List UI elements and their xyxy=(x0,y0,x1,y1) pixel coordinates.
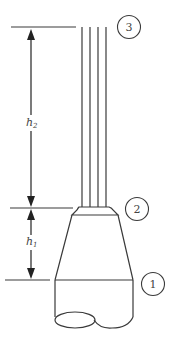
nozzle-body xyxy=(55,280,133,317)
arrowhead-up-icon xyxy=(27,29,35,40)
nozzle-diagram: h2 h1 3 2 1 xyxy=(0,0,176,345)
hose-end-ellipse xyxy=(55,312,95,328)
dimension-label-h1: h1 xyxy=(26,235,38,249)
arrowhead-down-icon xyxy=(27,268,35,279)
nozzle-collar xyxy=(72,207,118,215)
svg-text:2: 2 xyxy=(134,203,141,216)
svg-text:3: 3 xyxy=(126,21,133,34)
station-marker-2: 2 xyxy=(126,198,149,221)
station-marker-3: 3 xyxy=(118,16,141,39)
nozzle-frustum xyxy=(55,215,133,280)
hose-end-curve xyxy=(94,317,133,328)
station-marker-1: 1 xyxy=(142,273,165,296)
arrowhead-down-icon xyxy=(27,196,35,207)
dimension-label-h2: h2 xyxy=(26,116,38,130)
jet-streams xyxy=(82,27,106,207)
svg-text:1: 1 xyxy=(150,278,157,291)
arrowhead-up-icon xyxy=(27,209,35,220)
